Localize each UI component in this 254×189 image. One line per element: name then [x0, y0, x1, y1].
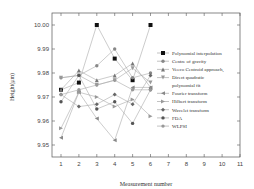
legend-label: Fourier transform [172, 91, 208, 96]
legend-label: FDA [172, 116, 182, 121]
y-tick-label: 9.97 [37, 94, 49, 100]
y-axis: 9.959.969.979.989.9910.00 [34, 22, 240, 148]
x-tick-label: 3 [95, 161, 99, 167]
legend-item: Wavelet transform [157, 108, 209, 113]
legend-item: Polynomial interpolation [157, 51, 222, 56]
x-tick-label: 9 [203, 161, 207, 167]
legend-item: Direct quadraticpolynomial fit [157, 75, 205, 88]
legend: Polynomial interpolationCentre of gravit… [157, 51, 224, 129]
legend-item: Centre of gravity [157, 59, 207, 64]
y-tick-label: 9.96 [37, 118, 49, 124]
line-chart: 9.959.969.979.989.9910.00 1234567891011 … [0, 0, 254, 189]
x-tick-label: 11 [237, 161, 244, 167]
svg-text:Direct quadratic: Direct quadratic [172, 75, 205, 80]
legend-label: Wavelet transform [172, 108, 209, 113]
legend-label: Polynomial interpolation [172, 51, 222, 56]
series-wavelet-transform [59, 73, 153, 108]
x-axis-label: Measurement number [120, 181, 172, 187]
legend-item: WLPSI [157, 124, 187, 129]
series-hilbert-transform [59, 90, 153, 130]
x-tick-label: 4 [113, 161, 117, 167]
y-tick-label: 9.95 [37, 142, 49, 148]
x-tick-label: 2 [77, 161, 81, 167]
legend-label: Hilbert transform [172, 99, 207, 104]
legend-item: Fourier transform [157, 91, 208, 96]
legend-label: WLPSI [172, 124, 187, 129]
legend-item: Hilbert transform [157, 99, 207, 104]
series-fourier-transform [59, 85, 153, 142]
plot-frame [52, 13, 240, 157]
y-tick-label: 10.00 [34, 22, 50, 28]
y-tick-label: 9.98 [37, 70, 49, 76]
svg-text:polynomial fit: polynomial fit [172, 83, 201, 88]
x-tick-label: 7 [167, 161, 171, 167]
x-tick-label: 10 [219, 161, 226, 167]
legend-item: Veeco Centroid approach, [157, 67, 224, 73]
x-tick-label: 8 [185, 161, 189, 167]
legend-label: Veeco Centroid approach, [172, 67, 224, 73]
legend-item: FDA [157, 116, 182, 121]
x-tick-label: 1 [59, 161, 63, 167]
legend-label: Centre of gravity [172, 59, 207, 64]
y-tick-label: 9.99 [37, 46, 49, 52]
series-group [59, 23, 153, 142]
y-axis-label: Height(μm) [9, 73, 16, 101]
x-tick-label: 5 [131, 161, 135, 167]
x-tick-label: 6 [149, 161, 153, 167]
